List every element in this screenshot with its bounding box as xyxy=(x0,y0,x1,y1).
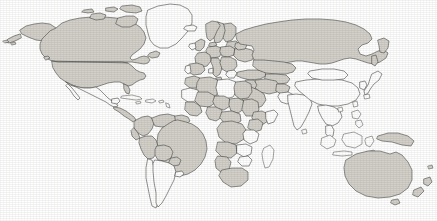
island-java xyxy=(333,151,352,156)
country-egypt[interactable] xyxy=(234,81,252,99)
country-zimbabwe[interactable] xyxy=(238,156,252,166)
island-sri-lanka[interactable] xyxy=(302,129,307,134)
island-hainan xyxy=(338,107,343,112)
island-victoria xyxy=(90,13,106,20)
country-poland[interactable] xyxy=(220,46,235,57)
world-map-container xyxy=(0,0,437,221)
world-map-svg xyxy=(0,0,437,221)
island-sardinia xyxy=(209,68,213,73)
island-fiji xyxy=(428,165,433,169)
island-taiwan xyxy=(353,101,358,107)
country-chad[interactable] xyxy=(229,98,244,113)
country-bolivia[interactable] xyxy=(155,145,173,161)
island-kyushu xyxy=(364,94,370,99)
country-mongolia[interactable] xyxy=(308,69,348,80)
country-iceland[interactable] xyxy=(184,25,197,31)
